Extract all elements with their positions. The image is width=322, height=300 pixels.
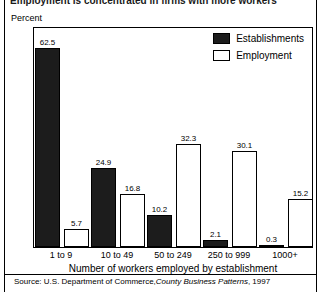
bar-employment-1-to-9: 5.7 — [64, 229, 89, 247]
source-note: Source: U.S. Department of Commerce,Coun… — [14, 277, 270, 287]
bar-establishments-10-to-49: 24.9 — [91, 168, 116, 247]
bar-group: 24.916.8 — [91, 28, 145, 247]
plot-area: 62.55.724.916.810.232.32.130.10.315.2 — [34, 28, 312, 247]
x-tick-label: 250 to 999 — [208, 250, 251, 261]
bar-employment-50-to-249: 32.3 — [176, 144, 201, 247]
bar-group: 62.55.7 — [35, 28, 89, 247]
source-suffix: , 1997 — [248, 277, 270, 286]
bar-group: 2.130.1 — [203, 28, 257, 247]
figure-container: Employment is concentrated in firms with… — [0, 0, 322, 300]
bar-establishments-1000+: 0.3 — [259, 245, 284, 247]
plot-frame: Establishments Employment 62.55.724.916.… — [33, 27, 313, 248]
bar-group: 0.315.2 — [259, 28, 313, 247]
x-tick-label: 1000+ — [272, 250, 297, 261]
chart-title: Employment is concentrated in firms with… — [10, 0, 310, 6]
x-tick-label: 50 to 249 — [154, 250, 192, 261]
bar-employment-1000+: 15.2 — [288, 199, 313, 247]
document-left-rule — [4, 0, 5, 292]
bar-employment-250-to-999: 30.1 — [232, 151, 257, 247]
source-prefix: Source: U.S. Department of Commerce, — [14, 277, 156, 286]
bar-groups: 62.55.724.916.810.232.32.130.10.315.2 — [34, 28, 312, 247]
document-right-rule — [316, 0, 317, 292]
y-axis-unit-label: Percent — [11, 13, 42, 24]
bar-value-label: 24.9 — [96, 158, 112, 168]
x-axis-tick-labels: 1 to 910 to 4950 to 249250 to 9991000+ — [33, 250, 313, 262]
bar-value-label: 62.5 — [40, 38, 56, 48]
bar-value-label: 16.8 — [125, 184, 141, 194]
bar-value-label: 15.2 — [293, 189, 309, 199]
bar-establishments-1-to-9: 62.5 — [35, 48, 60, 247]
bar-group: 10.232.3 — [147, 28, 201, 247]
bar-value-label: 5.7 — [71, 219, 82, 229]
bar-value-label: 0.3 — [266, 235, 277, 245]
bar-value-label: 2.1 — [210, 230, 221, 240]
x-tick-label: 10 to 49 — [101, 250, 134, 261]
bar-establishments-250-to-999: 2.1 — [203, 240, 228, 247]
source-separator — [5, 274, 316, 275]
source-publication: County Business Patterns — [156, 277, 248, 286]
bar-value-label: 30.1 — [237, 141, 253, 151]
bar-value-label: 10.2 — [152, 205, 168, 215]
bar-employment-10-to-49: 16.8 — [120, 194, 145, 247]
x-tick-label: 1 to 9 — [50, 250, 73, 261]
bar-value-label: 32.3 — [181, 134, 197, 144]
bar-establishments-50-to-249: 10.2 — [147, 215, 172, 247]
